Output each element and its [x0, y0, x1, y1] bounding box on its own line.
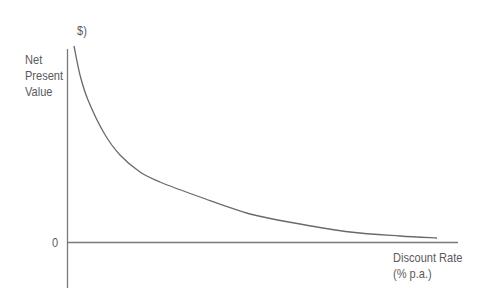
- x-axis-label-line1: Discount Rate: [393, 250, 462, 266]
- x-axis-label-line2: (% p.a.): [393, 266, 432, 282]
- y-axis-label-line3: Value: [25, 84, 52, 100]
- y-axis-label-line2: Present: [25, 68, 63, 84]
- y-zero-tick-label: 0: [52, 235, 58, 251]
- npv-curve: [74, 46, 437, 238]
- y-axis-label-line1: Net: [25, 52, 42, 68]
- y-axis-unit-label: $): [77, 23, 87, 39]
